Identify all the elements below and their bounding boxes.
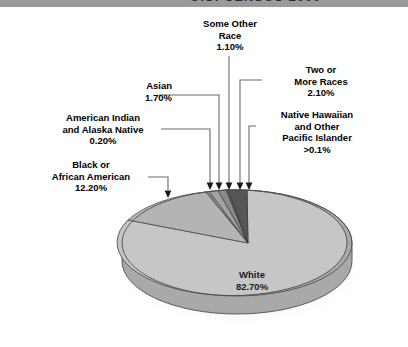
label-white: White 82.70%: [212, 269, 292, 292]
label-american-indian-line2: and Alaska Native: [34, 124, 172, 136]
label-asian-pct: 1.70%: [92, 92, 172, 104]
label-american-indian-line1: American Indian: [34, 112, 172, 124]
label-native-hawaiian-pacific-islander: Native Hawaiian and Other Pacific Island…: [258, 109, 376, 155]
label-some-other-race-pct: 1.10%: [182, 41, 278, 53]
leader-line-native-hawaiian: [249, 126, 256, 183]
arrowhead-two-or-more-races: [237, 183, 244, 191]
label-black-pct: 12.20%: [10, 182, 172, 194]
arrowhead-some-other-race: [226, 183, 233, 191]
title-band-fill: [0, 0, 190, 7]
label-american-indian-alaska-native: American Indian and Alaska Native 0.20%: [34, 112, 172, 147]
arrowhead-native-hawaiian: [246, 183, 253, 191]
chart-page: U.S. CENSUS 2000: [0, 0, 408, 347]
label-white-pct: 82.70%: [212, 281, 292, 293]
label-american-indian-pct: 0.20%: [34, 135, 172, 147]
label-native-hawaiian-line2: and Other: [258, 121, 376, 133]
label-black-line2: African American: [10, 171, 172, 183]
label-white-line1: White: [212, 269, 292, 281]
label-two-or-more-pct: 2.10%: [266, 87, 376, 99]
label-native-hawaiian-pct: >0.1%: [258, 144, 376, 156]
label-asian: Asian 1.70%: [92, 80, 172, 103]
label-some-other-race: Some Other Race 1.10%: [182, 18, 278, 53]
label-two-or-more-line2: More Races: [266, 76, 376, 88]
label-native-hawaiian-line3: Pacific Islander: [258, 132, 376, 144]
label-native-hawaiian-line1: Native Hawaiian: [258, 109, 376, 121]
label-some-other-race-line1: Some Other: [182, 18, 278, 30]
label-black-african-american: Black or African American 12.20%: [10, 159, 172, 194]
label-asian-line1: Asian: [92, 80, 172, 92]
arrowhead-american-indian: [207, 183, 214, 191]
pie-chart-plot-area: Some Other Race 1.10% Asian 1.70% Americ…: [0, 7, 408, 347]
label-black-line1: Black or: [10, 159, 172, 171]
arrowhead-asian: [216, 183, 223, 191]
label-two-or-more-races: Two or More Races 2.10%: [266, 64, 376, 99]
clipped-title-text: U.S. CENSUS 2000: [190, 0, 322, 4]
leader-arrowheads: [165, 183, 253, 199]
label-two-or-more-line1: Two or: [266, 64, 376, 76]
clipped-title-band: U.S. CENSUS 2000: [0, 0, 408, 7]
label-some-other-race-line2: Race: [182, 30, 278, 42]
